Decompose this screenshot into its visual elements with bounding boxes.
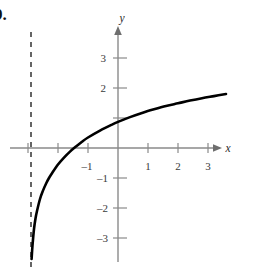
y-tick-label-neg1: –1 xyxy=(96,172,108,184)
x-axis-label: x xyxy=(224,142,231,154)
x-tick-label-neg1: –1 xyxy=(81,160,93,172)
problem-number-label: 9. xyxy=(0,6,7,23)
y-tick-label-neg2: –2 xyxy=(96,202,108,214)
logarithmic-curve xyxy=(32,94,226,259)
y-tick-label-2: 2 xyxy=(101,82,107,94)
x-axis-arrowhead xyxy=(213,144,222,152)
x-tick-label-2: 2 xyxy=(175,160,181,172)
y-axis-arrowhead xyxy=(114,26,122,35)
x-tick-label-3: 3 xyxy=(205,160,211,172)
figure-container: 9. x y –1 xyxy=(0,0,253,275)
y-axis-label: y xyxy=(118,12,125,25)
graph-svg: x y –1 1 2 3 xyxy=(0,0,253,275)
x-tick-label-1: 1 xyxy=(145,160,151,172)
axes-group: x y xyxy=(10,12,231,262)
y-tick-label-neg3: –3 xyxy=(96,232,109,244)
y-tick-label-3: 3 xyxy=(101,52,107,64)
